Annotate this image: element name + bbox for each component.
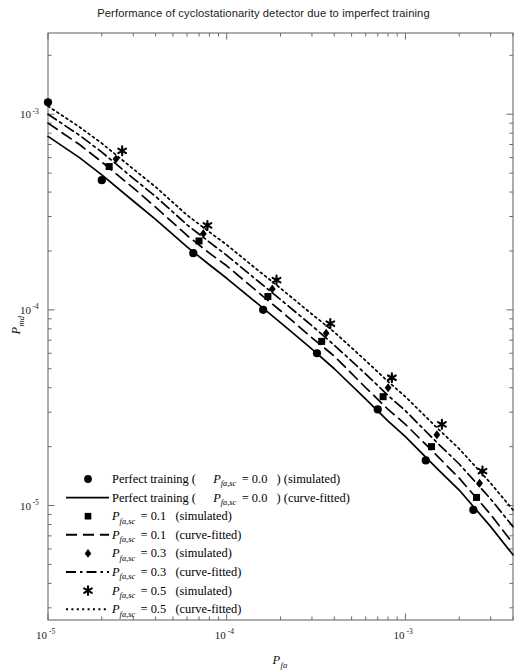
marker-circle xyxy=(469,506,477,514)
circle-marker-icon xyxy=(84,475,92,483)
legend-item[interactable]: Pfa,sc = 0.1 (curve-fitted) xyxy=(66,528,241,544)
legend-label-suffix: ) (curve-fitted) xyxy=(277,491,350,505)
svg-text:-3: -3 xyxy=(406,627,413,636)
legend-item[interactable]: Pfa,sc = 0.5 (curve-fitted) xyxy=(66,602,241,618)
svg-text:10: 10 xyxy=(20,500,32,512)
legend-item[interactable]: Perfect training (Pfa,sc = 0.0) (curve-f… xyxy=(66,491,350,507)
marker-square xyxy=(106,163,113,170)
legend-label-suffix: (simulated) xyxy=(175,509,231,523)
marker-square xyxy=(196,237,203,244)
y-axis-ticks xyxy=(48,55,513,608)
legend-label-subscript: fa,sc xyxy=(120,517,136,526)
svg-text:10: 10 xyxy=(20,304,32,316)
legend-label-value: = 0.0 xyxy=(242,491,268,505)
x-tick-label-1: 10-4 xyxy=(215,627,235,641)
svg-text:-5: -5 xyxy=(33,498,40,507)
marker-square xyxy=(473,494,480,501)
marker-star xyxy=(388,373,396,382)
legend-item[interactable]: Pfa,sc = 0.5 (simulated) xyxy=(84,584,232,600)
legend-label-value: = 0.1 xyxy=(141,528,167,542)
legend-item[interactable]: Pfa,sc = 0.3 (simulated) xyxy=(85,546,232,562)
x-tick-label-2: 10-3 xyxy=(393,627,413,641)
marker-star xyxy=(438,420,446,429)
marker-diamond xyxy=(200,229,207,238)
legend-label-suffix: (curve-fitted) xyxy=(175,528,241,542)
legend-label-prefix: Perfect training ( xyxy=(112,472,196,486)
y-axis-title-sub: md xyxy=(16,315,26,326)
marker-circle xyxy=(374,405,382,413)
legend-item[interactable]: Perfect training (Pfa,sc = 0.0) (simulat… xyxy=(84,472,340,488)
legend-label-subscript: fa,sc xyxy=(120,554,136,563)
legend-label-subscript: fa,sc xyxy=(221,479,237,488)
legend-label-value: = 0.3 xyxy=(141,565,167,579)
marker-circle xyxy=(44,98,52,106)
marker-circle xyxy=(98,176,106,184)
legend-label-subscript: fa,sc xyxy=(120,572,136,581)
legend-label-suffix: (curve-fitted) xyxy=(175,565,241,579)
marker-square xyxy=(428,443,435,450)
x-tick-label-0: 10-5 xyxy=(36,627,56,641)
svg-text:10: 10 xyxy=(20,108,32,120)
x-axis-tick-labels: 10-510-410-3 xyxy=(36,627,413,641)
legend-label-subscript: fa,sc xyxy=(221,498,237,507)
data-series-layer xyxy=(48,106,513,555)
chart-canvas: 10-510-410-3 10-310-410-5 Pfa Pmd Perfec… xyxy=(0,0,527,672)
diamond-marker-icon xyxy=(85,549,92,558)
y-axis-title-main: P xyxy=(9,327,23,336)
legend-label-value: = 0.5 xyxy=(141,602,167,616)
marker-square xyxy=(318,338,325,345)
legend-label-subscript: fa,sc xyxy=(120,610,136,619)
legend-label-value: = 0.1 xyxy=(141,509,167,523)
y-tick-label-2: 10-5 xyxy=(20,498,39,512)
legend-item[interactable]: Pfa,sc = 0.1 (simulated) xyxy=(85,509,232,525)
y-tick-label-0: 10-3 xyxy=(20,107,39,121)
svg-text:10: 10 xyxy=(215,629,227,641)
marker-diamond xyxy=(476,479,483,488)
svg-text:-5: -5 xyxy=(49,627,56,636)
y-axis-title: Pmd xyxy=(9,315,26,335)
marker-star xyxy=(118,146,126,155)
svg-text:10: 10 xyxy=(36,629,48,641)
marker-circle xyxy=(189,249,197,257)
x-axis-title-main: P xyxy=(272,653,281,667)
star-marker-icon xyxy=(84,586,92,595)
chart-legend: Perfect training (Pfa,sc = 0.0) (simulat… xyxy=(66,472,350,619)
x-axis-title-sub: fa xyxy=(281,660,288,670)
svg-text:-4: -4 xyxy=(228,627,235,636)
x-axis-title: Pfa xyxy=(272,653,288,670)
legend-label-value: = 0.0 xyxy=(242,472,268,486)
svg-text:-3: -3 xyxy=(33,107,40,116)
legend-item[interactable]: Pfa,sc = 0.3 (curve-fitted) xyxy=(66,565,241,581)
marker-diamond xyxy=(433,430,440,439)
legend-label-value: = 0.5 xyxy=(141,584,167,598)
figure-container: Performance of cyclostationarity detecto… xyxy=(0,0,527,672)
marker-square xyxy=(264,293,271,300)
legend-label-subscript: fa,sc xyxy=(120,591,136,600)
legend-label-value: = 0.3 xyxy=(141,546,167,560)
legend-label-subscript: fa,sc xyxy=(120,535,136,544)
marker-circle xyxy=(313,349,321,357)
svg-text:-4: -4 xyxy=(33,302,40,311)
marker-square xyxy=(380,393,387,400)
marker-circle xyxy=(259,306,267,314)
y-axis-tick-labels: 10-310-410-5 xyxy=(20,107,39,512)
svg-text:10: 10 xyxy=(393,629,405,641)
marker-diamond xyxy=(269,284,276,293)
legend-label-suffix: (curve-fitted) xyxy=(175,602,241,616)
y-tick-label-1: 10-4 xyxy=(20,302,39,316)
legend-label-suffix: (simulated) xyxy=(175,584,231,598)
legend-label-prefix: Perfect training ( xyxy=(112,491,196,505)
square-marker-icon xyxy=(85,513,92,520)
legend-label-suffix: (simulated) xyxy=(175,546,231,560)
marker-diamond xyxy=(385,383,392,392)
legend-label-suffix: ) (simulated) xyxy=(277,472,341,486)
marker-circle xyxy=(422,456,430,464)
